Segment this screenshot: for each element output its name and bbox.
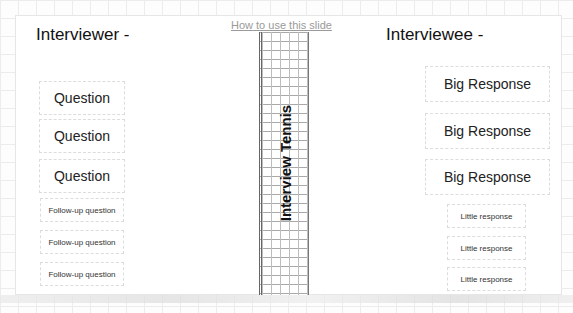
question-box[interactable]: Question	[39, 119, 125, 153]
interviewee-heading: Interviewee -	[386, 25, 483, 45]
how-to-use-link[interactable]: How to use this slide	[231, 19, 332, 31]
little-response-box[interactable]: Little response	[447, 267, 526, 291]
follow-up-question-box[interactable]: Follow-up question	[40, 198, 124, 222]
net-label: Interview Tennis	[277, 105, 294, 221]
follow-up-question-box[interactable]: Follow-up question	[40, 230, 124, 254]
interviewer-heading: Interviewer -	[36, 25, 130, 45]
torn-paper-edge	[0, 295, 573, 303]
big-response-box[interactable]: Big Response	[425, 66, 550, 102]
follow-up-question-box[interactable]: Follow-up question	[40, 262, 124, 286]
big-response-box[interactable]: Big Response	[425, 159, 550, 195]
question-box[interactable]: Question	[39, 159, 125, 193]
big-response-box[interactable]: Big Response	[425, 113, 550, 149]
question-box[interactable]: Question	[39, 81, 125, 115]
little-response-box[interactable]: Little response	[447, 236, 526, 260]
little-response-box[interactable]: Little response	[447, 204, 526, 228]
